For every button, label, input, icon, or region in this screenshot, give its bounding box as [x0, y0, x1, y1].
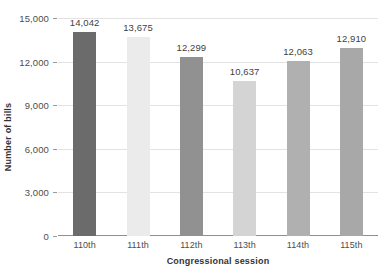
bar[interactable]: 12,063 [287, 61, 310, 236]
bar-value-label: 14,042 [70, 17, 100, 28]
plot-area: 14,04213,67512,29910,63712,06312,910 [58, 18, 378, 236]
bar[interactable]: 12,299 [180, 57, 203, 236]
bar[interactable]: 13,675 [127, 37, 150, 236]
y-axis-tick-mark [53, 105, 57, 106]
x-axis-line [58, 235, 378, 236]
y-axis-tick-label: 15,000 [19, 13, 49, 24]
x-axis-tick-label: 115th [340, 240, 362, 250]
y-axis-tick-mark [53, 62, 57, 63]
grid-line [58, 192, 378, 193]
y-axis-tick-label: 0 [44, 231, 49, 242]
y-axis-tick-mark [53, 149, 57, 150]
bar-value-label: 12,299 [176, 42, 206, 53]
bar-value-label: 10,637 [230, 66, 260, 77]
y-axis-tick-label: 12,000 [19, 56, 49, 67]
x-axis-tick-label: 110th [73, 240, 95, 250]
grid-line [58, 105, 378, 106]
bar[interactable]: 10,637 [233, 81, 256, 236]
bar-value-label: 12,063 [283, 46, 313, 57]
x-axis-tick-label: 111th [127, 240, 149, 250]
y-axis-tick-labels: 03,0006,0009,00012,00015,000 [0, 0, 58, 274]
grid-line [58, 62, 378, 63]
grid-line [58, 149, 378, 150]
bar-chart: Number of bills 03,0006,0009,00012,00015… [0, 0, 384, 274]
y-axis-tick-mark [53, 192, 57, 193]
y-axis-tick-label: 6,000 [25, 143, 49, 154]
x-axis-tick-label: 112th [180, 240, 202, 250]
x-axis-tick-label: 113th [233, 240, 255, 250]
x-axis-tick-label: 114th [287, 240, 309, 250]
y-axis-tick-label: 3,000 [25, 187, 49, 198]
x-axis-title: Congressional session [167, 256, 270, 266]
y-axis-tick-mark [53, 236, 57, 237]
bar[interactable]: 14,042 [73, 32, 96, 236]
grid-line [58, 18, 378, 19]
y-axis-tick-mark [53, 18, 57, 19]
bar-value-label: 13,675 [123, 22, 153, 33]
bar[interactable]: 12,910 [340, 48, 363, 236]
bar-value-label: 12,910 [336, 33, 366, 44]
y-axis-tick-label: 9,000 [25, 100, 49, 111]
